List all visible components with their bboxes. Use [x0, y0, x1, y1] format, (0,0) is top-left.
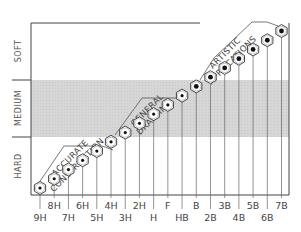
hexagon-marker-2h [134, 117, 145, 130]
hexagon-marker-5h [91, 145, 102, 158]
grade-label-7b: 7B [275, 200, 288, 211]
y-band-label-medium: MEDIUM [14, 90, 23, 126]
grade-label-b: B [193, 200, 200, 211]
hexagon-marker-9h [34, 182, 45, 195]
hexagon-marker-2b [205, 71, 216, 84]
grade-label-3b: 3B [218, 200, 231, 211]
grade-label-2b: 2B [204, 212, 217, 223]
hexagon-marker-h [148, 108, 159, 121]
hexagon-marker-f [162, 98, 173, 111]
hexagon-marker-6h [77, 154, 88, 167]
hexagon-marker-hb [176, 89, 187, 102]
hexagon-marker-4b [233, 52, 244, 65]
pencil-grade-chart: HARDMEDIUMSOFT ACCURATECONSTRUCTIONGENER… [0, 0, 301, 232]
grade-label-9h: 9H [33, 212, 46, 223]
hexagon-marker-8h [49, 172, 60, 185]
grade-label-3h: 3H [119, 212, 132, 223]
grade-label-2h: 2H [133, 200, 146, 211]
grade-label-7h: 7H [62, 212, 75, 223]
hexagon-marker-3b [219, 61, 230, 74]
y-band-label-soft: SOFT [14, 40, 23, 63]
grade-label-4h: 4H [104, 200, 117, 211]
hexagon-marker-5b [247, 43, 258, 56]
grade-label-f: F [165, 200, 170, 211]
grade-label-h: H [150, 212, 157, 223]
hexagon-marker-6b [262, 34, 273, 47]
grade-label-hb: HB [175, 212, 189, 223]
hexagon-marker-7h [63, 163, 74, 176]
hexagon-marker-3h [120, 126, 131, 139]
grade-label-6b: 6B [261, 212, 274, 223]
grade-label-8h: 8H [48, 200, 61, 211]
y-band-label-hard: HARD [14, 153, 23, 178]
x-axis-grade-labels: 9H8H7H6H5H4H3H2HHFHBB2B3B4B5B6B7B [33, 200, 287, 223]
grade-label-5b: 5B [247, 200, 260, 211]
grade-label-4b: 4B [233, 212, 246, 223]
hexagon-marker-b [191, 80, 202, 93]
range-label-accurate-construction: ACCURATECONSTRUCTION [41, 129, 106, 194]
hexagon-marker-4h [105, 135, 116, 148]
y-band-labels: HARDMEDIUMSOFT [14, 40, 23, 179]
grade-label-5h: 5H [90, 212, 103, 223]
grade-label-6h: 6H [76, 200, 89, 211]
hexagon-marker-7b [276, 25, 287, 38]
